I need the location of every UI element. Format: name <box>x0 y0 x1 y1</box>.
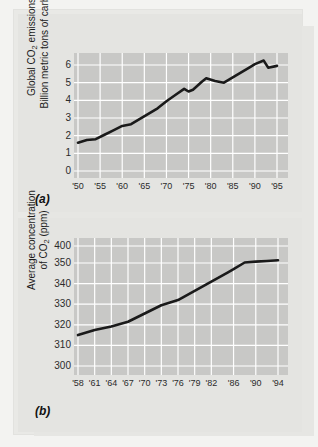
chart-a-ytick-6: 6 <box>51 60 71 70</box>
chart-b-ytick-310: 310 <box>43 340 71 350</box>
chart-a-xtick-50: '50 <box>66 182 90 191</box>
figure-container: Global CO2 emissionsBillion metric tons … <box>0 0 318 447</box>
chart-a-xtick-75: '75 <box>177 182 201 191</box>
chart-b-xtick-90: '90 <box>244 379 268 388</box>
chart-b-svg <box>74 238 288 375</box>
chart-a-xtick-65: '65 <box>132 182 156 191</box>
chart-b-ytick-340: 340 <box>43 279 71 289</box>
chart-b-ytick-330: 330 <box>43 299 71 309</box>
axis-title-line-2: Billion metric tons of carbon <box>39 0 51 116</box>
chart-a-xtick-95: '95 <box>265 182 289 191</box>
chart-a-xtick-55: '55 <box>88 182 112 191</box>
chart-a-xtick-85: '85 <box>221 182 245 191</box>
chart-b-xtick-82: '82 <box>199 379 223 388</box>
chart-b-ytick-300: 300 <box>43 361 71 371</box>
chart-a-ytick-1: 1 <box>51 148 71 158</box>
chart-a-ytick-3: 3 <box>51 113 71 123</box>
chart-a-ytick-4: 4 <box>51 95 71 105</box>
chart-a-xtick-70: '70 <box>154 182 178 191</box>
chart-b-y-axis-title: Average concentrationof CO2 (ppm) <box>26 170 51 310</box>
chart-b-xtick-86: '86 <box>222 379 246 388</box>
chart-a-ytick-2: 2 <box>51 131 71 141</box>
chart-a-svg <box>74 53 288 178</box>
chart-a-plot-area <box>74 53 288 178</box>
axis-title-line-1: Global CO2 emissions <box>26 0 39 116</box>
chart-b-plot-area <box>74 238 288 375</box>
chart-a-ytick-0: 0 <box>51 166 71 176</box>
chart-a-y-axis-title: Global CO2 emissionsBillion metric tons … <box>26 0 51 116</box>
chart-b-ytick-320: 320 <box>43 320 71 330</box>
chart-a-ytick-5: 5 <box>51 78 71 88</box>
chart-b-ytick-400: 400 <box>43 241 71 251</box>
chart-a-xtick-90: '90 <box>243 182 267 191</box>
chart-b-ytick-350: 350 <box>43 258 71 268</box>
axis-title-line-1: Average concentration <box>26 170 38 310</box>
panel-b-label: (b) <box>35 404 50 418</box>
chart-b-xtick-94: '94 <box>266 379 290 388</box>
axis-title-line-2: of CO2 (ppm) <box>38 170 51 310</box>
chart-a-xtick-80: '80 <box>199 182 223 191</box>
chart-a-xtick-60: '60 <box>110 182 134 191</box>
